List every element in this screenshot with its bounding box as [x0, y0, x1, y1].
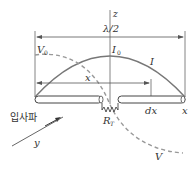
v0-subscript: 0 [44, 49, 48, 56]
dx-label: dx [145, 105, 157, 116]
i0-subscript: 0 [117, 49, 121, 56]
voltage-distribution-curve [35, 54, 183, 153]
load-resistor-icon [102, 103, 118, 112]
x-distance-dimension [36, 79, 151, 96]
z-axis-label: z [112, 9, 118, 19]
current-label: I [149, 56, 155, 67]
antenna-right-rod [118, 96, 185, 103]
voltage-label: V [155, 151, 164, 162]
incident-wave-arrow-icon [45, 117, 61, 126]
load-resistor-subscript: T [110, 120, 115, 127]
antenna-left-rod [35, 96, 102, 103]
dipole-antenna-diagram: z λ/2 V 0 I 0 I x R T dx x 입사파 y [0, 0, 196, 169]
incident-wave-label: 입사파 [10, 111, 37, 123]
x-distance-label: x [85, 72, 91, 83]
y-axis-label: y [33, 137, 40, 148]
half-wavelength-label: λ/2 [102, 23, 119, 34]
x-axis-label: x [182, 105, 188, 116]
